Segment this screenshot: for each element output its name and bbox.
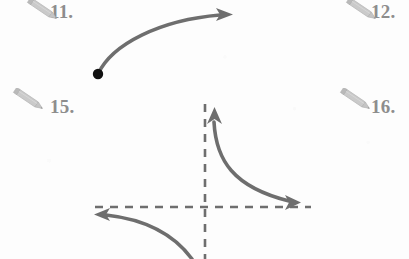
hyperbola-figure xyxy=(94,104,311,259)
increasing-curve-path xyxy=(98,15,220,74)
worksheet-page: 11. 12. 15. 16. xyxy=(0,0,409,259)
hyperbola-branch-lower-left xyxy=(106,215,192,259)
endpoint-dot xyxy=(93,69,103,79)
hyperbola-branch-upper-right xyxy=(214,122,289,201)
increasing-curve-figure xyxy=(93,8,233,79)
figures-layer xyxy=(0,0,409,259)
